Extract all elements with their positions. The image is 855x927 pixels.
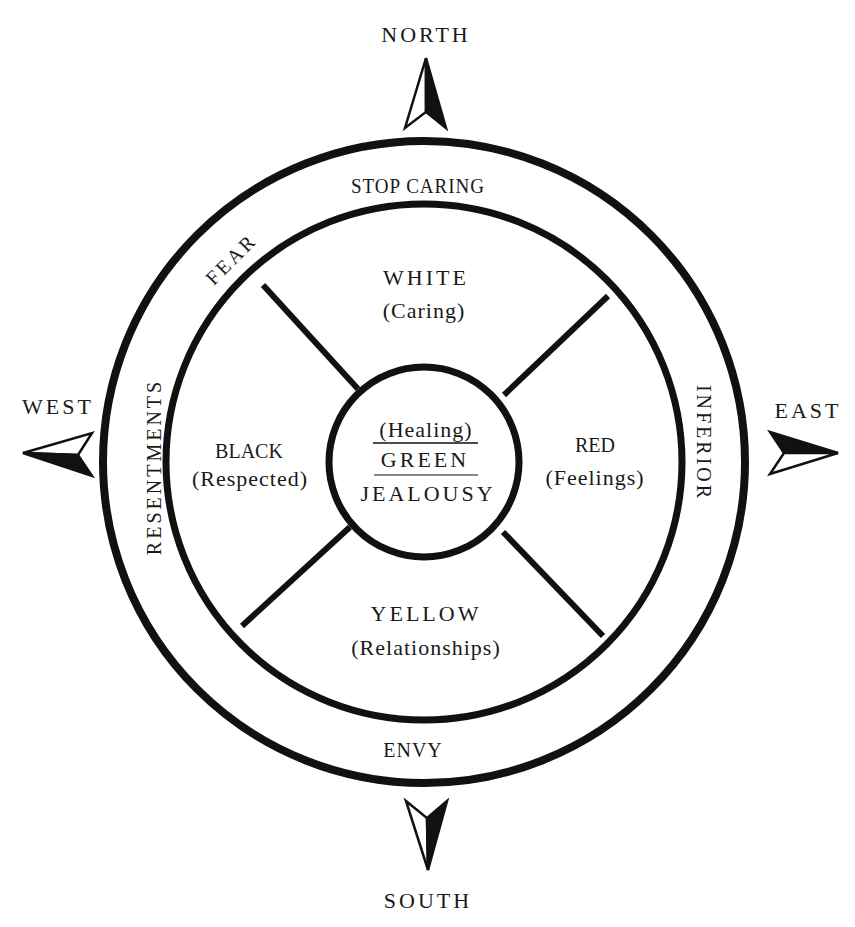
center-emotion: JEALOUSY: [360, 481, 495, 506]
quadrant-left-color: BLACK: [215, 440, 283, 462]
east-arrow-icon: [770, 432, 838, 474]
outer-ring-bottom-label: ENVY: [383, 739, 443, 761]
south-arrow-icon: [406, 801, 447, 870]
quadrant-top-color: WHITE: [383, 265, 469, 290]
spoke-top-right: [504, 296, 608, 395]
quadrant-bottom-meaning: (Relationships): [351, 635, 500, 660]
center-color: GREEN: [381, 447, 469, 472]
spoke-bottom-left: [242, 527, 350, 626]
outer-ring-fear-label: FEAR: [201, 229, 261, 289]
medicine-wheel-diagram: NORTH SOUTH WEST EAST STOP CARING FEAR R…: [0, 0, 855, 927]
south-label: SOUTH: [384, 888, 472, 913]
outer-ring-right-label: INFERIOR: [693, 385, 715, 501]
spoke-bottom-right: [503, 532, 603, 636]
quadrant-right-meaning: (Feelings): [545, 465, 644, 490]
quadrant-top-meaning: (Caring): [383, 298, 466, 323]
west-arrow-icon: [23, 433, 92, 476]
outer-ring-top-label: STOP CARING: [351, 175, 485, 197]
spoke-top-left: [263, 285, 358, 389]
north-label: NORTH: [381, 22, 470, 47]
quadrant-right-color: RED: [575, 434, 615, 456]
quadrant-left-meaning: (Respected): [192, 466, 308, 491]
center-meaning: (Healing): [379, 417, 472, 442]
outer-ring-left-label: RESENTMENTS: [143, 379, 165, 555]
quadrant-bottom-color: YELLOW: [371, 601, 482, 626]
east-label: EAST: [775, 398, 842, 423]
west-label: WEST: [22, 394, 94, 419]
north-arrow-icon: [405, 58, 446, 128]
